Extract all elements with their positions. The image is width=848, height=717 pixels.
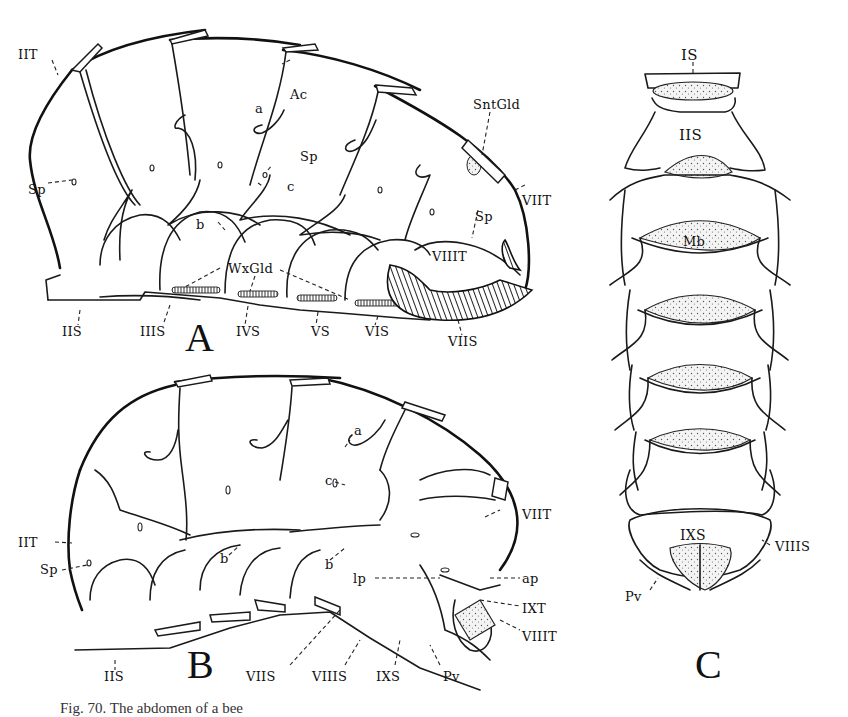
- panel-b-drawing: [55, 375, 520, 690]
- label-b-ixt: IXT: [522, 602, 546, 615]
- label-b-iit: IIT: [18, 536, 38, 549]
- label-b-b1: b: [220, 552, 229, 565]
- label-a-iiis: IIIS: [140, 325, 166, 338]
- label-b-viis: VIIS: [246, 670, 276, 683]
- label-b-a: a: [354, 424, 362, 437]
- label-c-is: IS: [681, 48, 698, 63]
- label-a-iit: IIT: [18, 48, 38, 61]
- label-b-ap: ap: [522, 572, 539, 585]
- label-b-iis: IIS: [104, 670, 124, 683]
- panel-letter-c: C: [695, 645, 722, 685]
- label-a-c: c: [287, 180, 295, 193]
- label-b-viiis: VIIIS: [312, 670, 347, 683]
- label-c-ixs: IXS: [680, 528, 706, 542]
- label-c-viiis: VIIIS: [775, 540, 810, 553]
- label-a-a: a: [255, 102, 263, 115]
- label-b-lp: lp: [353, 572, 366, 585]
- label-a-ivs: IVS: [236, 325, 260, 338]
- label-c-pv: Pv: [625, 590, 642, 603]
- label-a-wxgld: WxGld: [228, 262, 273, 275]
- label-b-ixs: IXS: [376, 670, 400, 683]
- label-a-viiit: VIIIT: [432, 250, 467, 263]
- label-b-sp: Sp: [40, 563, 58, 576]
- label-a-viit: VIIT: [522, 194, 552, 207]
- label-b-b2: b: [325, 558, 334, 571]
- label-b-pv: Pv: [443, 670, 460, 683]
- label-b-c: c: [325, 474, 333, 487]
- label-a-viis: VIIS: [448, 335, 478, 348]
- panel-a-drawing: [30, 30, 532, 335]
- label-a-sp2: Sp: [300, 150, 318, 163]
- label-a-ac: Ac: [290, 88, 307, 101]
- label-a-vis: VIS: [365, 325, 389, 338]
- panel-letter-a: A: [185, 318, 214, 358]
- label-a-sp: Sp: [28, 183, 46, 196]
- figure-caption: Fig. 70. The abdomen of a bee: [60, 700, 243, 717]
- label-c-mb: Mb: [683, 235, 705, 248]
- label-c-iis: IIS: [679, 128, 702, 143]
- panel-letter-b: B: [187, 645, 214, 685]
- label-a-iis: IIS: [62, 325, 82, 338]
- label-a-sntgld: SntGld: [473, 98, 520, 111]
- label-a-vs: VS: [311, 325, 330, 338]
- label-a-sp3: Sp: [475, 210, 493, 223]
- label-b-viit: VIIT: [522, 508, 552, 521]
- label-b-viiit: VIIIT: [522, 630, 557, 643]
- label-a-b: b: [196, 218, 205, 231]
